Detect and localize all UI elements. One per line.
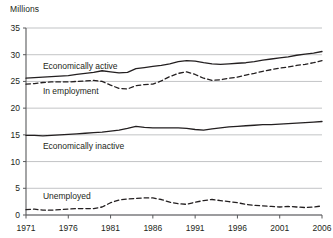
x-tick-1996: 1996 (228, 223, 247, 233)
series-line-economically-inactive (26, 122, 322, 136)
y-tick-10: 10 (2, 157, 20, 167)
series-label-unemployed: Unemployed (43, 191, 91, 201)
x-tick-1991: 1991 (186, 223, 205, 233)
series-label-economically-inactive: Economically inactive (43, 141, 124, 151)
x-tick-2006: 2006 (313, 223, 332, 233)
line-chart: Millions 05101520253035 1971197619811986… (0, 0, 333, 238)
series-label-in-employment: In employment (43, 86, 99, 96)
y-tick-15: 15 (2, 130, 20, 140)
y-tick-25: 25 (2, 76, 20, 86)
y-tick-20: 20 (2, 103, 20, 113)
y-tick-30: 30 (2, 50, 20, 60)
series-label-economically-active: Economically active (43, 61, 118, 71)
x-tick-1986: 1986 (143, 223, 162, 233)
x-tick-1976: 1976 (59, 223, 78, 233)
y-tick-5: 5 (2, 183, 20, 193)
y-tick-0: 0 (2, 210, 20, 220)
x-tick-2001: 2001 (270, 223, 289, 233)
plot-area (0, 0, 333, 238)
x-tick-1981: 1981 (101, 223, 120, 233)
y-tick-35: 35 (2, 23, 20, 33)
x-tick-1971: 1971 (17, 223, 36, 233)
